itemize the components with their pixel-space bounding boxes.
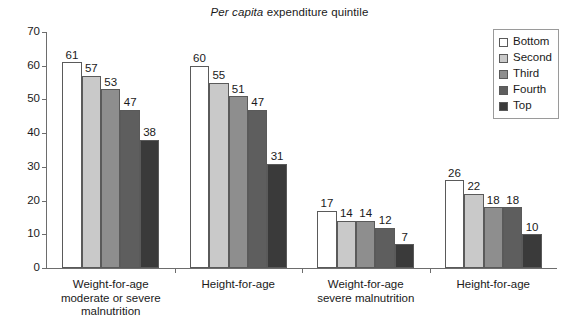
legend-label: Top [513,100,532,112]
bar[interactable]: 18 [503,207,522,268]
bar[interactable]: 26 [445,180,464,268]
x-tick-mark [302,268,303,273]
y-tick-label: 30 [27,161,40,173]
bar-slot: 22 [464,32,483,268]
bar-value-label: 14 [340,208,353,220]
y-tick-mark [42,99,47,100]
group-caption: Height-for-age [430,278,558,292]
bar[interactable]: 22 [464,194,483,268]
bar-chart: Per capita expenditure quintile 01020304… [0,0,579,333]
y-tick-label: 60 [27,60,40,72]
bar[interactable]: 61 [62,62,81,268]
legend-item[interactable]: Bottom [499,34,552,50]
bars-row: 6157534738 [62,32,159,268]
group-caption: Weight-for-age severe malnutrition [302,278,430,305]
bar-value-label: 10 [526,222,539,234]
bar-slot: 55 [209,32,228,268]
y-tick-mark [42,268,47,269]
legend-label: Fourth [513,84,546,96]
bar-value-label: 22 [467,181,480,193]
legend-swatch [499,38,508,47]
bar-slot: 31 [267,32,286,268]
y-tick-mark [42,167,47,168]
bar[interactable]: 47 [248,110,267,268]
bar[interactable]: 51 [229,96,248,268]
bar[interactable]: 12 [375,228,394,268]
bar-slot: 53 [101,32,120,268]
x-tick-mark [430,268,431,273]
bar-slot: 17 [317,32,336,268]
bar-group: 6055514731 [190,32,287,268]
group-caption: Weight-for-age moderate or severe malnut… [47,278,175,319]
plot-area: 010203040506070 615753473860555147311714… [47,32,557,268]
bar[interactable]: 14 [356,221,375,268]
y-tick-mark [42,66,47,67]
legend-item[interactable]: Third [499,66,552,82]
bar-value-label: 31 [271,151,284,163]
bar[interactable]: 31 [267,164,286,269]
x-tick-mark [175,268,176,273]
legend-swatch [499,54,508,63]
bar-slot: 26 [445,32,464,268]
bar-slot: 38 [140,32,159,268]
bar[interactable]: 18 [484,207,503,268]
bar[interactable]: 7 [395,244,414,268]
bar-value-label: 61 [66,50,79,62]
bar[interactable]: 14 [337,221,356,268]
legend-item[interactable]: Fourth [499,82,552,98]
y-tick-label: 20 [27,195,40,207]
legend-swatch [499,70,508,79]
bar-slot: 60 [190,32,209,268]
bar-slot: 7 [395,32,414,268]
legend-label: Bottom [513,36,549,48]
bar-slot: 12 [375,32,394,268]
bar-slot: 14 [356,32,375,268]
bar-value-label: 26 [448,168,461,180]
bar[interactable]: 53 [101,89,120,268]
legend-item[interactable]: Second [499,50,552,66]
y-tick-mark [42,32,47,33]
y-tick-label: 50 [27,94,40,106]
bar-value-label: 18 [506,195,519,207]
bar-value-label: 51 [232,84,245,96]
bar-slot: 14 [337,32,356,268]
bars-row: 171414127 [317,32,414,268]
bar-slot: 51 [229,32,248,268]
bar-group: 171414127 [317,32,414,268]
bar-value-label: 38 [143,127,156,139]
bar-value-label: 53 [104,77,117,89]
bar-slot: 57 [82,32,101,268]
group-caption: Height-for-age [175,278,303,292]
y-tick-label: 0 [34,262,40,274]
bar-value-label: 47 [124,97,137,109]
legend-swatch [499,86,508,95]
bar-slot: 61 [62,32,81,268]
legend-label: Third [513,68,539,80]
legend-label: Second [513,52,552,64]
bar-value-label: 17 [321,198,334,210]
bar-value-label: 55 [212,70,225,82]
legend-item[interactable]: Top [499,98,552,114]
y-tick-mark [42,133,47,134]
y-tick-label: 70 [27,26,40,38]
bar[interactable]: 60 [190,66,209,268]
bar[interactable]: 10 [522,234,541,268]
bar[interactable]: 47 [120,110,139,268]
bar[interactable]: 55 [209,83,228,268]
bar-value-label: 18 [487,195,500,207]
y-tick-mark [42,234,47,235]
chart-title: Per capita expenditure quintile [0,6,579,18]
legend-swatch [499,102,508,111]
bar-slot: 47 [120,32,139,268]
bar[interactable]: 38 [140,140,159,268]
y-tick-label: 40 [27,127,40,139]
bar-value-label: 7 [401,232,407,244]
bar-value-label: 57 [85,63,98,75]
bar[interactable]: 17 [317,211,336,268]
bar[interactable]: 57 [82,76,101,268]
bar-slot: 47 [248,32,267,268]
bars-row: 6055514731 [190,32,287,268]
bar-value-label: 12 [379,215,392,227]
legend: BottomSecondThirdFourthTop [493,29,559,119]
chart-title-rest: expenditure quintile [263,6,368,18]
